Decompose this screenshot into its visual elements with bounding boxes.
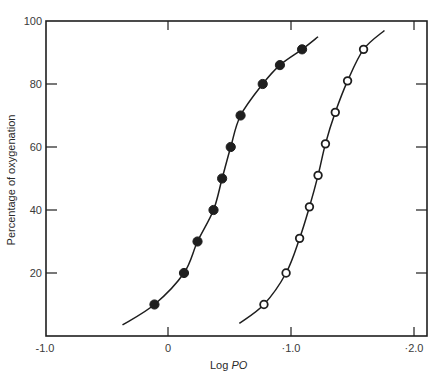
- x-axis-title: Log PO: [210, 359, 248, 371]
- open-circle-marker: [322, 140, 330, 148]
- x-tick-label: ·2.0: [405, 342, 424, 354]
- filled-circle-marker: [179, 268, 188, 277]
- filled-circle-marker: [218, 174, 227, 183]
- filled-circle-marker: [193, 237, 202, 246]
- x-tick-label: -1.0: [36, 342, 55, 354]
- x-axis-title-main: Log: [210, 359, 231, 371]
- filled-circle-marker: [226, 142, 235, 151]
- filled-circle-marker: [258, 79, 267, 88]
- y-tick-label: 80: [30, 78, 42, 90]
- y-axis-title: Percentage of oxygenation: [5, 115, 17, 246]
- y-axis-ticks: 20406080100: [24, 15, 427, 279]
- open-circle-marker: [360, 46, 368, 54]
- open-circle-marker: [331, 109, 339, 117]
- filled-circle-marker: [275, 61, 284, 70]
- open-circle-marker: [344, 77, 352, 85]
- filled-circle-marker: [236, 111, 245, 120]
- y-tick-label: 40: [30, 204, 42, 216]
- fitted-curves: [122, 30, 384, 325]
- open-circle-marker: [282, 269, 290, 277]
- plot-border: [46, 21, 427, 336]
- open-circle-marker: [314, 172, 322, 180]
- x-axis-title-italic: PO: [231, 359, 247, 371]
- y-tick-label: 100: [24, 15, 42, 27]
- y-tick-label: 60: [30, 141, 42, 153]
- y-tick-label: 20: [30, 267, 42, 279]
- filled-circle-marker: [150, 300, 159, 309]
- plot-frame: [46, 21, 427, 336]
- open-circle-marker: [296, 235, 304, 243]
- data-points: [150, 45, 368, 309]
- x-axis-ticks: -1.00·1.0·2.0: [36, 21, 424, 354]
- oxygenation-chart: 20406080100 -1.00·1.0·2.0 Percentage of …: [0, 0, 443, 379]
- filled-circle-marker: [297, 45, 306, 54]
- open-circle-marker: [306, 203, 314, 211]
- curve-open-circle: [239, 30, 384, 323]
- filled-circle-marker: [209, 205, 218, 214]
- open-circle-marker: [260, 301, 268, 309]
- x-tick-label: 0: [165, 342, 171, 354]
- x-tick-label: ·1.0: [282, 342, 301, 354]
